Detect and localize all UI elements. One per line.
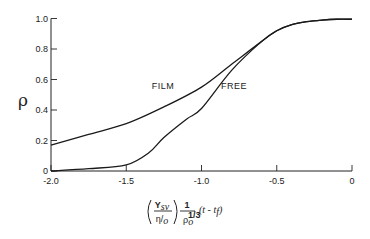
- y-tick-label: 1.0: [35, 14, 48, 24]
- x-tick-label: -1.0: [194, 176, 210, 186]
- series-label-film: FILM: [152, 81, 175, 91]
- y-tick-label: 0: [43, 166, 48, 176]
- x-tick-label: -2.0: [43, 176, 59, 186]
- x-tick-label: -1.5: [118, 176, 134, 186]
- left-paren: [148, 200, 151, 224]
- x-tick-label: 0: [349, 176, 354, 186]
- right-paren: [174, 200, 177, 224]
- x-axis-label: Ysv η/o 1 ρo 1/3 (t - tf): [148, 200, 223, 227]
- time-term: (t - tf): [199, 204, 223, 217]
- y-axis-label: ρ: [18, 90, 28, 110]
- series-line-film: [51, 19, 352, 145]
- paren-numerator: Ysv: [155, 200, 170, 212]
- y-tick-label: 0.4: [35, 105, 48, 115]
- chart: 00.20.40.60.81.0 -2.0-1.5-1.0-0.50 FILMF…: [0, 0, 370, 239]
- y-ticks: 00.20.40.60.81.0: [35, 14, 57, 177]
- y-tick-label: 0.6: [35, 75, 48, 85]
- y-tick-label: 0.8: [35, 44, 48, 54]
- series-label-free: FREE: [221, 81, 247, 91]
- x-tick-label: -0.5: [269, 176, 285, 186]
- y-tick-label: 0.2: [35, 136, 48, 146]
- series-line-free: [51, 19, 352, 171]
- axes: [51, 19, 352, 172]
- paren-denominator: η/o: [156, 214, 169, 226]
- annotations: FILMFREE: [152, 81, 247, 91]
- frac-numerator: 1: [184, 200, 189, 210]
- series-lines: [51, 19, 352, 171]
